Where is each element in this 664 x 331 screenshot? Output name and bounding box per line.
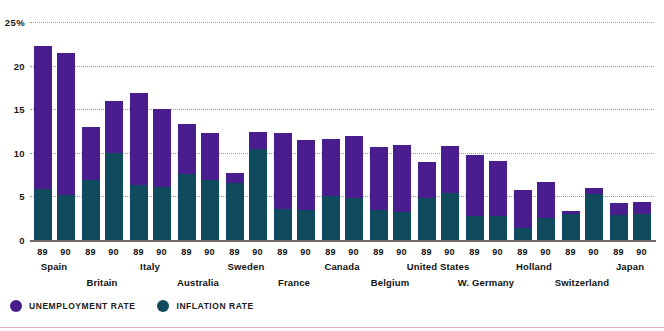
bar-group (78, 22, 126, 240)
bar-segment-inflation (297, 210, 315, 240)
bar-group (366, 22, 414, 240)
legend-swatch-circle-icon (157, 300, 169, 312)
bar-australia-90 (201, 133, 219, 240)
bar-united-states-89 (418, 162, 436, 240)
year-labels: 8990 (318, 247, 366, 257)
bar-segment-inflation (34, 189, 52, 240)
bar-segment-inflation (153, 187, 171, 240)
bar-japan-89 (610, 203, 628, 240)
y-axis: 25%20151050 (0, 22, 30, 240)
bar-segment-unemployment (441, 146, 459, 193)
legend-item-inflation: INFLATION RATE (157, 300, 253, 312)
bar-segment-unemployment (489, 161, 507, 217)
country-label: Sweden (228, 261, 265, 272)
y-axis-tick-label: 15 (14, 104, 25, 115)
year-labels: 8990 (126, 247, 174, 257)
bar-segment-inflation (57, 195, 75, 240)
bar-segment-unemployment (393, 145, 411, 212)
year-label: 89 (82, 247, 100, 257)
legend-item-unemployment: UNEMPLOYMENT RATE (10, 300, 135, 312)
x-label-group: 8990Sweden (222, 244, 270, 294)
bar-segment-unemployment (34, 46, 52, 189)
bar-segment-inflation (610, 215, 628, 240)
bar-segment-unemployment (153, 109, 171, 187)
bar-france-90 (297, 140, 315, 240)
bar-group (462, 22, 510, 240)
bar-group (126, 22, 174, 240)
bar-segment-inflation (562, 214, 580, 240)
bar-segment-inflation (249, 149, 267, 240)
year-label: 89 (274, 247, 292, 257)
year-labels: 8990 (366, 247, 414, 257)
country-label: Italy (140, 261, 160, 272)
year-label: 90 (489, 247, 507, 257)
year-label: 90 (585, 247, 603, 257)
bar-segment-inflation (537, 218, 555, 240)
bar-segment-unemployment (418, 162, 436, 199)
bar-britain-89 (82, 127, 100, 240)
bar-w-germany-90 (489, 161, 507, 240)
bar-segment-inflation (105, 153, 123, 240)
bar-segment-unemployment (466, 155, 484, 216)
bar-group (510, 22, 558, 240)
bar-group (174, 22, 222, 240)
country-label: United States (407, 261, 470, 272)
year-label: 90 (105, 247, 123, 257)
y-axis-tick-label: 0 (19, 235, 25, 246)
bar-segment-unemployment (226, 173, 244, 183)
year-label: 89 (178, 247, 196, 257)
year-label: 89 (370, 247, 388, 257)
year-label: 89 (322, 247, 340, 257)
year-labels: 8990 (30, 247, 78, 257)
year-label: 90 (633, 247, 651, 257)
y-axis-tick-label: 5 (19, 191, 25, 202)
bar-segment-unemployment (370, 147, 388, 211)
year-label: 89 (34, 247, 52, 257)
legend-label-inflation: INFLATION RATE (176, 301, 253, 311)
bar-segment-unemployment (537, 182, 555, 218)
bar-group (414, 22, 462, 240)
x-label-group: 8990W. Germany (462, 244, 510, 294)
year-labels: 8990 (78, 247, 126, 257)
country-label: Australia (177, 277, 219, 288)
bar-segment-unemployment (514, 190, 532, 227)
bar-sweden-89 (226, 173, 244, 240)
x-label-group: 8990France (270, 244, 318, 294)
x-axis-labels: 8990Spain8990Britain8990Italy8990Austral… (30, 244, 654, 294)
country-label: Japan (616, 261, 644, 272)
bar-segment-inflation (226, 183, 244, 240)
bar-segment-unemployment (201, 133, 219, 180)
x-label-group: 8990United States (414, 244, 462, 294)
year-labels: 8990 (174, 247, 222, 257)
year-labels: 8990 (222, 247, 270, 257)
bar-groups (30, 22, 654, 240)
bar-segment-inflation (274, 209, 292, 240)
bar-w-germany-89 (466, 155, 484, 240)
bar-group (270, 22, 318, 240)
x-label-group: 8990Australia (174, 244, 222, 294)
bar-segment-inflation (633, 214, 651, 240)
bar-segment-inflation (322, 196, 340, 240)
bar-segment-inflation (201, 180, 219, 240)
bar-switzerland-90 (585, 188, 603, 240)
bar-united-states-90 (441, 146, 459, 240)
bar-britain-90 (105, 100, 123, 240)
y-axis-tick-label: 25% (5, 17, 25, 28)
bar-group (606, 22, 654, 240)
bar-australia-89 (178, 124, 196, 240)
bar-segment-unemployment (322, 139, 340, 197)
year-label: 89 (226, 247, 244, 257)
x-label-group: 8990Canada (318, 244, 366, 294)
bar-segment-inflation (466, 216, 484, 240)
bar-holland-89 (514, 190, 532, 240)
chart-legend: UNEMPLOYMENT RATE INFLATION RATE (10, 300, 254, 312)
bar-segment-unemployment (297, 140, 315, 211)
bar-segment-inflation (489, 216, 507, 240)
year-label: 90 (393, 247, 411, 257)
bar-segment-unemployment (274, 133, 292, 210)
year-label: 89 (418, 247, 436, 257)
year-label: 90 (537, 247, 555, 257)
bar-segment-inflation (130, 185, 148, 240)
x-label-group: 8990Spain (30, 244, 78, 294)
legend-swatch-circle-icon (10, 300, 22, 312)
